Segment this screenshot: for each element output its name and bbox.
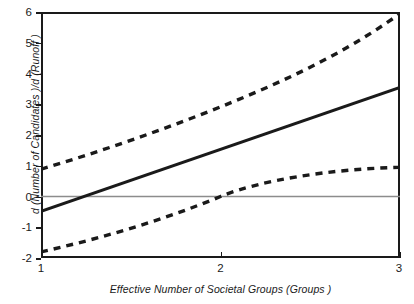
plot-curves <box>41 12 400 258</box>
x-tick-mark-2 <box>221 252 223 258</box>
lower-confidence-bound <box>41 167 400 252</box>
x-tick-label-2: 2 <box>208 263 234 275</box>
marginal-effect-line <box>41 87 400 211</box>
y-axis-title: d (Number of Candidates )/d (Runoff ) <box>29 14 41 234</box>
x-tick-label-1: 1 <box>28 263 54 275</box>
x-tick-mark-1 <box>41 252 43 258</box>
y-tick-mark-neg2 <box>36 258 41 260</box>
curves-svg <box>41 12 400 258</box>
x-tick-mark-3 <box>399 252 401 258</box>
upper-confidence-bound <box>41 14 400 170</box>
x-axis-title: Effective Number of Societal Groups (Gro… <box>41 283 400 295</box>
figure-root: 6 5 4 3 2 1 0 -1 -2 <box>0 0 414 304</box>
x-tick-label-3: 3 <box>386 263 412 275</box>
